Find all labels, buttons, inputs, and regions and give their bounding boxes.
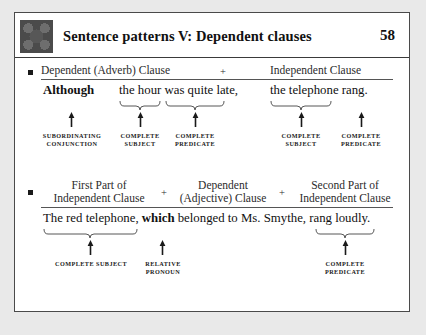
decorative-pattern-icon bbox=[20, 20, 53, 53]
label-complete-subject-3: COMPLETE SUBJECT bbox=[43, 260, 139, 268]
page-card: Sentence patterns V: Dependent clauses 5… bbox=[14, 12, 410, 312]
column-header-first-part-independent: First Part of Independent Clause bbox=[41, 179, 157, 204]
sentence1-part-although: Although bbox=[43, 83, 94, 98]
label-relative-pronoun: RELATIVE PRONOUN bbox=[131, 260, 195, 276]
header-divider bbox=[15, 57, 409, 58]
section2-header-underline bbox=[41, 207, 393, 208]
plus-sign-3: + bbox=[279, 187, 285, 198]
brace-complete-subject-1 bbox=[119, 101, 161, 110]
square-bullet bbox=[28, 70, 33, 75]
plus-sign-2: + bbox=[161, 187, 167, 198]
brace-complete-subject-3 bbox=[43, 229, 138, 238]
brace-complete-predicate-1 bbox=[165, 101, 225, 110]
arrow-subordinating-conjunction bbox=[68, 112, 75, 127]
arrow-complete-subject-3 bbox=[87, 240, 94, 255]
column-header-dependent-adverb-clause: Dependent (Adverb) Clause bbox=[41, 64, 170, 76]
arrow-complete-predicate-1 bbox=[192, 112, 199, 127]
arrow-complete-predicate-3 bbox=[342, 240, 349, 255]
brace-complete-subject-2 bbox=[270, 101, 332, 110]
brace-complete-predicate-3 bbox=[315, 229, 375, 238]
arrow-complete-predicate-2 bbox=[358, 112, 365, 127]
label-complete-predicate-1: COMPLETE PREDICATE bbox=[163, 132, 227, 148]
square-bullet bbox=[28, 190, 33, 195]
arrow-relative-pronoun bbox=[159, 240, 166, 255]
label-complete-subject-2: COMPLETE SUBJECT bbox=[269, 132, 333, 148]
sentence2-part-which: which bbox=[142, 211, 175, 225]
sentence2: The red telephone, which belonged to Ms.… bbox=[43, 211, 370, 226]
section1-header-underline bbox=[41, 79, 393, 80]
sentence2-part-3: belonged to Ms. Smythe, rang loudly. bbox=[175, 211, 371, 225]
arrow-complete-subject-2 bbox=[298, 112, 305, 127]
arrow-complete-subject-1 bbox=[137, 112, 144, 127]
column-header-independent-clause: Independent Clause bbox=[270, 64, 361, 76]
sentence2-part-1: The red telephone, bbox=[43, 211, 142, 225]
label-complete-predicate-3: COMPLETE PREDICATE bbox=[313, 260, 377, 276]
page-header: Sentence patterns V: Dependent clauses 5… bbox=[15, 13, 409, 49]
label-subordinating-conjunction: SUBORDINATING CONJUNCTION bbox=[28, 132, 116, 148]
column-header-second-part-independent: Second Part of Independent Clause bbox=[287, 179, 403, 204]
label-complete-predicate-2: COMPLETE PREDICATE bbox=[329, 132, 393, 148]
plus-sign-1: + bbox=[220, 66, 226, 77]
sentence1-part-independent: the telephone rang. bbox=[270, 83, 368, 98]
column-header-dependent-adjective: Dependent (Adjective) Clause bbox=[170, 179, 276, 204]
page-number: 58 bbox=[380, 27, 395, 44]
page-title: Sentence patterns V: Dependent clauses bbox=[63, 28, 312, 45]
sentence1-part-subject: the hour was quite late, bbox=[119, 83, 238, 98]
